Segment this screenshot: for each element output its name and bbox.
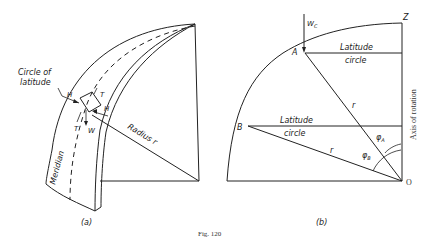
label-wc: WC xyxy=(307,20,318,29)
panel-a-label: (a) xyxy=(81,218,92,227)
axis-line-a xyxy=(195,24,199,181)
arrowhead-h-left-icon xyxy=(73,99,79,103)
panel-b-label: (b) xyxy=(316,218,327,227)
label-latitude-top-1: Latitude xyxy=(340,43,373,52)
label-latitude: latitude xyxy=(20,78,51,87)
label-phi-b: φB xyxy=(362,151,371,161)
label-point-a: A xyxy=(291,48,297,57)
figure-caption: Fig. 120 xyxy=(198,230,222,238)
label-latitude-bottom-1: Latitude xyxy=(280,116,313,125)
figure-120: Circle of latitude H T H T W Meridian Ra… xyxy=(0,0,434,247)
label-point-z: Z xyxy=(402,13,409,22)
panel-a: Circle of latitude H T H T W Meridian Ra… xyxy=(18,24,199,227)
label-h-left: H xyxy=(67,91,73,99)
meridian-arc-b xyxy=(227,23,402,181)
label-t-bottom: T xyxy=(74,125,79,133)
arrowhead-wc-icon xyxy=(302,47,306,53)
arrow-t-bottom xyxy=(77,112,81,122)
label-phi-a: φA xyxy=(376,133,385,143)
label-latitude-top-2: circle xyxy=(345,56,367,65)
label-point-o: O xyxy=(406,178,412,187)
circle-latitude-leader xyxy=(58,88,62,96)
radius-line-a xyxy=(305,53,402,181)
arrow-t-top xyxy=(94,88,97,94)
label-r-upper: r xyxy=(352,101,356,110)
label-h-right: H xyxy=(104,105,110,113)
label-radius: Radius r xyxy=(126,122,159,147)
label-latitude-bottom-2: circle xyxy=(284,129,306,138)
radius-line xyxy=(92,115,199,181)
label-t-top: T xyxy=(100,91,105,99)
shell-thickness-bottom xyxy=(95,207,101,211)
label-r-lower: r xyxy=(330,146,334,155)
arrowhead-w-icon xyxy=(84,121,88,126)
label-axis-of-rotation: Axis of rotation xyxy=(409,89,418,140)
label-point-b: B xyxy=(237,123,243,132)
label-w: W xyxy=(88,127,96,135)
meridian-dashed-line xyxy=(70,26,195,200)
shell-outer-edge xyxy=(46,24,195,184)
label-circle-of: Circle of xyxy=(18,68,52,77)
panel-b: Z A B O WC Latitude circle Latitude circ… xyxy=(227,13,418,227)
